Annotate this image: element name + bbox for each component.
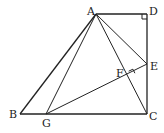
point-label-A: A xyxy=(86,5,96,18)
point-label-D: D xyxy=(149,5,158,18)
segment-AG xyxy=(46,14,96,114)
point-label-C: C xyxy=(149,110,157,123)
segment-AC xyxy=(96,14,147,114)
right-angle-mark-D xyxy=(142,14,147,19)
point-label-F: F xyxy=(116,67,124,80)
point-label-E: E xyxy=(150,60,158,73)
geometry-diagram: A D E F B G C xyxy=(0,0,164,133)
point-label-B: B xyxy=(9,108,17,121)
segment-AE xyxy=(96,14,147,64)
segment-GE xyxy=(46,64,147,114)
segment-AB xyxy=(20,14,96,114)
point-label-G: G xyxy=(42,117,51,130)
